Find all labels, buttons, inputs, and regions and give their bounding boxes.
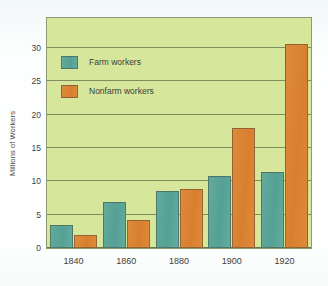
y-tick-label-30: 30 [32,43,41,53]
legend-swatch-farm-workers [61,56,78,69]
y-tick-label-5: 5 [36,210,41,220]
y-tick-label-10: 10 [32,176,41,186]
chart-legend: Farm workers Nonfarm workers [61,55,154,113]
chart-figure: Millions of Workers 051015202530 Farm wo… [0,0,328,286]
bar-nonfarm-workers-1880[interactable] [180,189,203,248]
bar-nonfarm-workers-1900[interactable] [232,128,255,248]
legend-label-farm-workers: Farm workers [89,57,141,67]
bar-farm-workers-1900[interactable] [208,176,231,248]
bar-nonfarm-workers-1920[interactable] [285,44,308,248]
bar-nonfarm-workers-1860[interactable] [127,220,150,248]
bar-nonfarm-workers-1840[interactable] [74,235,97,248]
bar-series-container [47,18,311,248]
x-tick-label-1860: 1860 [116,256,136,266]
x-tick-label-1840: 1840 [63,256,83,266]
plot-inner: Farm workers Nonfarm workers [47,18,311,248]
x-axis-tick-labels: 18401860188019001920 [46,256,312,272]
x-tick-label-1880: 1880 [169,256,189,266]
legend-item-nonfarm-workers: Nonfarm workers [61,84,154,98]
bar-farm-workers-1860[interactable] [103,202,126,248]
legend-swatch-nonfarm-workers [61,85,78,98]
x-tick-label-1920: 1920 [275,256,295,266]
bar-farm-workers-1880[interactable] [156,191,179,248]
plot-area: Farm workers Nonfarm workers [46,17,312,249]
y-axis-tick-labels: 051015202530 [18,17,44,249]
x-tick-label-1900: 1900 [222,256,242,266]
y-tick-label-25: 25 [32,76,41,86]
y-axis-label-text: Millions of Workers [9,110,18,175]
bar-farm-workers-1920[interactable] [261,172,284,248]
legend-label-nonfarm-workers: Nonfarm workers [89,86,154,96]
bar-farm-workers-1840[interactable] [50,225,73,248]
legend-item-farm-workers: Farm workers [61,55,154,69]
y-tick-label-15: 15 [32,143,41,153]
y-tick-label-0: 0 [36,243,41,253]
y-tick-label-20: 20 [32,110,41,120]
